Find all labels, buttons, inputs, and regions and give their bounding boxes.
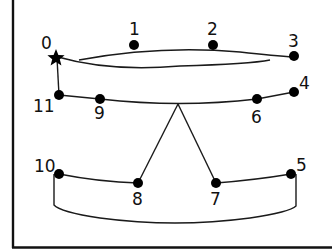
label-2: 2 bbox=[207, 19, 218, 39]
edge-fork-8 bbox=[138, 104, 178, 183]
label-11: 11 bbox=[33, 96, 55, 116]
edge-10-5-loop bbox=[54, 174, 296, 223]
node-3 bbox=[289, 51, 299, 61]
node-11 bbox=[54, 90, 64, 100]
label-3: 3 bbox=[288, 31, 299, 51]
edge-0-3-upper bbox=[79, 50, 294, 60]
node-1 bbox=[129, 40, 139, 50]
node-4 bbox=[289, 87, 299, 97]
label-9: 9 bbox=[94, 103, 105, 123]
edge-7-5 bbox=[216, 174, 291, 183]
edge-11-9 bbox=[59, 95, 100, 99]
numbered-graph-diagram: 0 1 2 3 4 5 6 7 8 9 10 11 bbox=[0, 0, 332, 250]
node-8 bbox=[133, 178, 143, 188]
edge-fork-7 bbox=[178, 104, 216, 183]
edge-6-4 bbox=[257, 92, 294, 99]
label-1: 1 bbox=[129, 19, 140, 39]
label-6: 6 bbox=[251, 107, 262, 127]
label-8: 8 bbox=[132, 189, 143, 209]
label-4: 4 bbox=[299, 73, 310, 93]
node-6 bbox=[252, 94, 262, 104]
label-5: 5 bbox=[296, 155, 307, 175]
edge-10-8 bbox=[59, 174, 138, 183]
edge-9-6 bbox=[100, 99, 257, 104]
node-5 bbox=[286, 169, 296, 179]
label-0: 0 bbox=[41, 33, 52, 53]
node-2 bbox=[208, 40, 218, 50]
node-7 bbox=[211, 178, 221, 188]
label-10: 10 bbox=[34, 156, 56, 176]
label-7: 7 bbox=[210, 189, 221, 209]
